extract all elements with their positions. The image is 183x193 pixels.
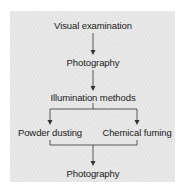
node-powder-dusting: Powder dusting bbox=[18, 127, 82, 138]
arrowhead-icon bbox=[135, 120, 140, 125]
arrowhead-icon bbox=[91, 50, 96, 55]
node-illumination-methods: Illumination methods bbox=[50, 92, 135, 103]
node-photography-2: Photography bbox=[67, 168, 120, 179]
node-chemical-fuming: Chemical fuming bbox=[102, 127, 171, 138]
arrowhead-icon bbox=[91, 86, 96, 91]
arrowhead-icon bbox=[48, 120, 53, 125]
arrowhead-icon bbox=[91, 161, 96, 166]
node-photography-1: Photography bbox=[67, 57, 120, 68]
node-visual-examination: Visual examination bbox=[54, 20, 132, 31]
